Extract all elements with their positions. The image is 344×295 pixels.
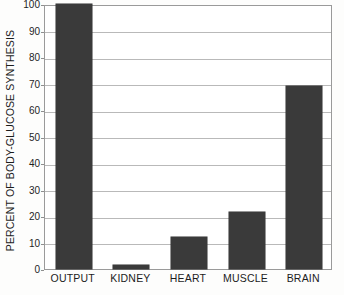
y-tick-label: 80 [29, 53, 40, 63]
y-tick-label: 40 [29, 159, 40, 169]
bar-chart-figure: PERCENT OF BODY-GLUCOSE SYNTHESIS 010203… [0, 0, 344, 295]
y-tick-label: 0 [34, 265, 40, 275]
y-axis-title: PERCENT OF BODY-GLUCOSE SYNTHESIS [2, 8, 18, 273]
y-tick-label: 10 [29, 239, 40, 249]
bar-series [45, 6, 331, 269]
plot-area [44, 5, 332, 270]
bar [229, 212, 265, 269]
x-tick-label: OUTPUT [51, 272, 95, 284]
y-tick-label: 100 [23, 0, 40, 10]
bar [56, 4, 92, 269]
bar [113, 265, 149, 269]
y-tick-mark [41, 270, 44, 271]
x-tick-label: MUSCLE [223, 272, 268, 284]
x-tick-label: HEART [170, 272, 206, 284]
y-tick-label: 30 [29, 186, 40, 196]
y-tick-label: 20 [29, 212, 40, 222]
bar [171, 237, 207, 269]
x-axis-tick-labels: OUTPUTKIDNEYHEARTMUSCLEBRAIN [44, 272, 332, 292]
y-axis-tick-labels: 0102030405060708090100 [18, 0, 44, 275]
y-tick-label: 70 [29, 80, 40, 90]
y-tick-label: 60 [29, 106, 40, 116]
x-tick-label: KIDNEY [110, 272, 150, 284]
bar [286, 86, 322, 269]
y-tick-label: 90 [29, 27, 40, 37]
y-tick-label: 50 [29, 133, 40, 143]
x-tick-label: BRAIN [287, 272, 320, 284]
